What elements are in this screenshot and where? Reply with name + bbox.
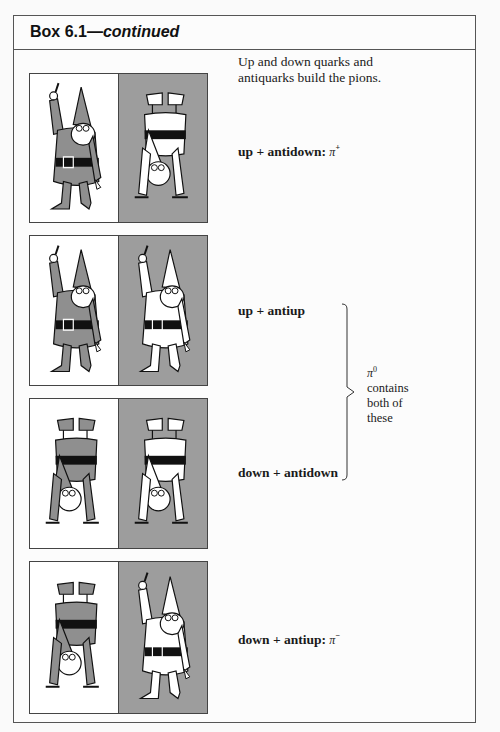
antiquark-cell-antidown	[118, 399, 208, 548]
antiquark-cell-antidown	[118, 74, 208, 222]
charge-superscript: +	[335, 143, 340, 152]
charge-superscript: −	[335, 631, 340, 640]
pion-panel-up-antiup	[29, 235, 208, 386]
gnome-gray-upright-icon	[30, 74, 119, 222]
antiquark-cell-antiup	[118, 562, 208, 713]
box-title: Box 6.1—continued	[30, 23, 179, 41]
label-text: down + antiup:	[238, 632, 326, 647]
box-title-dash: —	[87, 23, 103, 40]
box-title-number: Box 6.1	[30, 23, 87, 40]
gnome-gray-upside-down-icon	[30, 562, 119, 713]
gnome-gray-upside-down-icon	[30, 399, 119, 548]
label-text: up + antidown:	[238, 144, 326, 159]
box-title-continued: continued	[103, 23, 179, 40]
label-pi-plus: up + antidown: π+	[238, 140, 340, 160]
quark-cell-up	[30, 236, 119, 385]
quark-cell-down	[30, 399, 119, 548]
gnome-white-upside-down-icon	[119, 399, 208, 548]
label-up-antiup: up + antiup	[238, 303, 305, 319]
gnome-white-upright-icon	[119, 236, 208, 385]
pi-zero-note: π0 contains both of these	[367, 362, 409, 426]
intro-line-2: antiquarks build the pions.	[238, 70, 381, 86]
box-header: Box 6.1—continued	[14, 16, 475, 50]
gnome-white-upside-down-icon	[119, 74, 208, 222]
label-down-antidown: down + antidown	[238, 465, 338, 481]
quark-cell-down	[30, 562, 119, 713]
intro-line-1: Up and down quarks and	[238, 54, 381, 70]
pi-zero-note-line-3: these	[367, 411, 409, 426]
gnome-white-upright-icon	[119, 562, 208, 713]
pion-panel-down-antidown	[29, 398, 208, 549]
pion-panel-down-antiup	[29, 561, 208, 714]
curly-brace-icon	[340, 303, 356, 481]
label-pi-minus: down + antiup: π−	[238, 628, 340, 648]
pi-zero-note-line-1: contains	[367, 381, 409, 396]
pi-zero-note-line-2: both of	[367, 396, 409, 411]
antiquark-cell-antiup	[118, 236, 208, 385]
charge-superscript: 0	[373, 365, 377, 374]
quark-cell-up	[30, 74, 119, 222]
pion-panel-up-antidown	[29, 73, 208, 223]
intro-text: Up and down quarks and antiquarks build …	[238, 54, 381, 86]
gnome-gray-upright-icon	[30, 236, 119, 385]
